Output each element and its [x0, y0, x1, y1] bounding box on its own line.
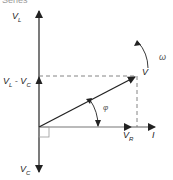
phi-arrowhead — [95, 120, 101, 127]
label-vl-minus-vc: VL - VC — [3, 77, 31, 88]
phasor-diagram — [0, 0, 173, 180]
label-v: V — [142, 68, 148, 77]
label-phi: φ — [103, 104, 108, 112]
omega-arc — [138, 42, 148, 68]
label-vc: VC — [20, 165, 30, 176]
label-i: I — [152, 131, 155, 140]
label-vr: VR — [123, 131, 133, 142]
omega-arrowhead — [134, 40, 141, 46]
v-phasor — [39, 77, 135, 127]
vl-minus-vc-arrowhead — [36, 76, 43, 84]
label-vl: VL — [12, 12, 21, 23]
right-angle-marker — [39, 127, 49, 137]
label-omega: ω — [159, 53, 166, 62]
